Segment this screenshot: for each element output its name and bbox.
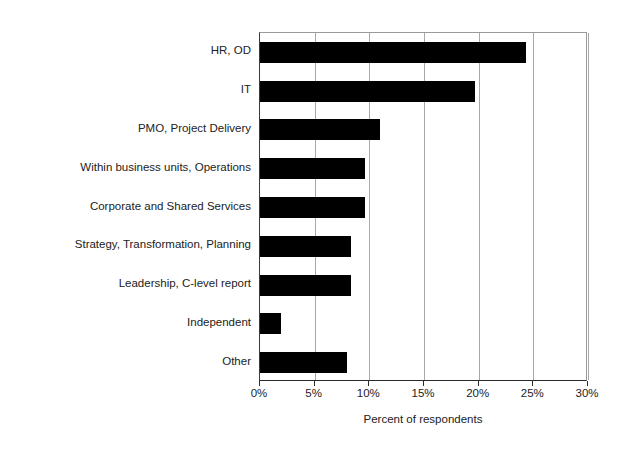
bar-chart: HR, ODITPMO, Project DeliveryWithin busi… <box>0 0 630 452</box>
y-axis-category-labels: HR, ODITPMO, Project DeliveryWithin busi… <box>0 32 630 381</box>
y-axis-label: Independent <box>0 316 251 328</box>
y-axis-label: Within business units, Operations <box>0 161 251 173</box>
y-axis-label: Corporate and Shared Services <box>0 200 251 212</box>
x-axis-tick-label: 0% <box>251 386 268 400</box>
x-axis-tick-label: 5% <box>305 386 322 400</box>
y-axis-label: HR, OD <box>0 44 251 56</box>
y-axis-label: PMO, Project Delivery <box>0 122 251 134</box>
y-axis-label: IT <box>0 83 251 95</box>
x-axis-title: Percent of respondents <box>259 413 587 425</box>
x-axis-tick-label: 20% <box>466 386 489 400</box>
x-axis-tick-label: 15% <box>411 386 434 400</box>
x-axis-tick-label: 30% <box>575 386 598 400</box>
y-axis-label: Other <box>0 355 251 367</box>
x-axis-tick-label: 25% <box>521 386 544 400</box>
x-axis-tick-label: 10% <box>357 386 380 400</box>
x-axis-tick-labels: 0%5%10%15%20%25%30% <box>0 386 630 402</box>
y-axis-label: Strategy, Transformation, Planning <box>0 238 251 250</box>
y-axis-label: Leadership, C-level report <box>0 277 251 289</box>
